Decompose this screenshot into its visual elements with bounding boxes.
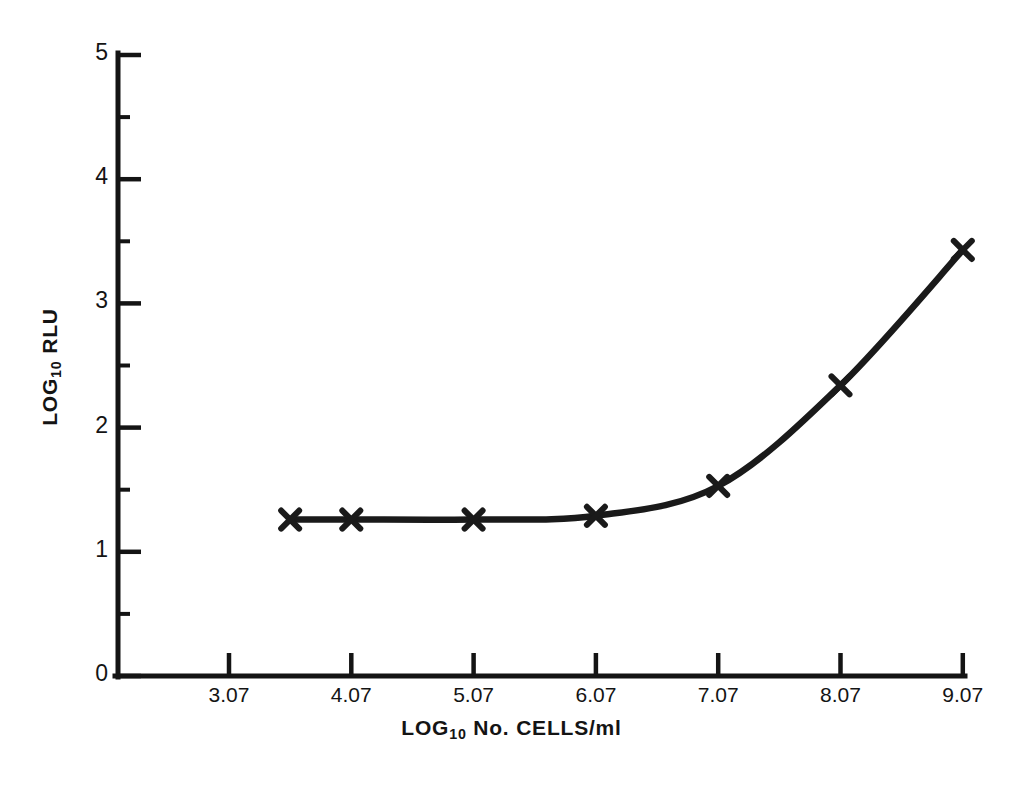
- x-axis-tick-label: 5.07: [424, 683, 524, 707]
- y-axis-tick-label: 1: [62, 536, 108, 563]
- chart-figure: 012345 3.074.075.076.077.078.079.07 LOG1…: [0, 0, 1023, 798]
- x-axis-tick-label: 4.07: [301, 683, 401, 707]
- data-point-marker: [832, 376, 850, 394]
- x-axis-tick-label: 3.07: [179, 683, 279, 707]
- x-axis-tick-label: 9.07: [913, 683, 1013, 707]
- y-axis-tick-label: 0: [62, 660, 108, 687]
- data-series-line: [290, 250, 963, 520]
- x-axis-title: LOG10 No. CELLS/ml: [0, 716, 1023, 740]
- chart-plot-area: [0, 0, 1023, 798]
- y-axis-tick-label: 3: [62, 287, 108, 314]
- y-axis-tick-label: 2: [62, 412, 108, 439]
- x-axis-tick-label: 8.07: [791, 683, 891, 707]
- y-axis-tick-label: 5: [62, 39, 108, 66]
- y-axis-title: LOG10 RLU: [38, 257, 62, 477]
- data-point-marker: [954, 241, 972, 259]
- x-axis-tick-label: 6.07: [546, 683, 646, 707]
- data-point-markers: [281, 241, 972, 529]
- y-axis-tick-label: 4: [62, 163, 108, 190]
- x-axis-major-ticks: [229, 653, 963, 676]
- x-axis-tick-label: 7.07: [668, 683, 768, 707]
